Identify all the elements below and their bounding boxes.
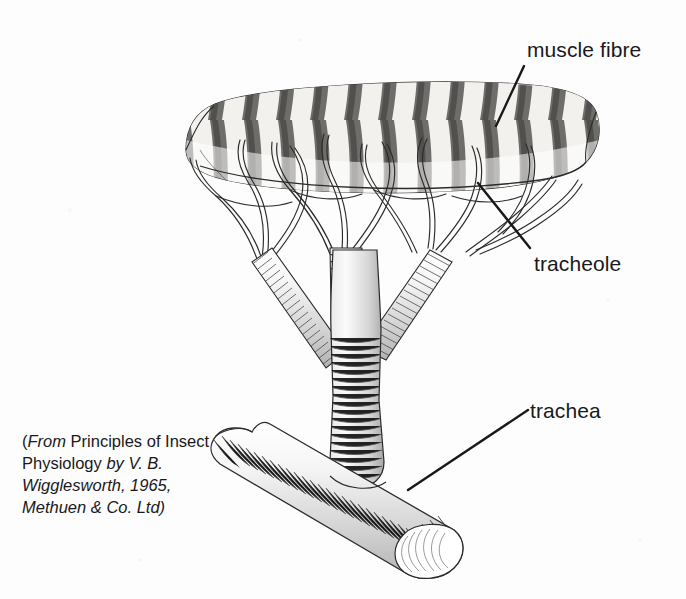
leader-trachea [408, 410, 528, 490]
tracheal-trunk [328, 250, 384, 488]
label-tracheole: tracheole [534, 252, 621, 276]
label-muscle-fibre: muscle fibre [527, 38, 641, 62]
muscle-fibre-shape [180, 74, 610, 200]
figure-page: muscle fibre tracheole trachea (From Pri… [0, 0, 686, 599]
attribution-by: by [102, 454, 129, 472]
trachea-opening [395, 524, 463, 578]
attribution-caption: (From Principles of Insect Physiology by… [22, 430, 212, 518]
label-trachea: trachea [530, 399, 601, 423]
attribution-from: From [28, 432, 71, 450]
